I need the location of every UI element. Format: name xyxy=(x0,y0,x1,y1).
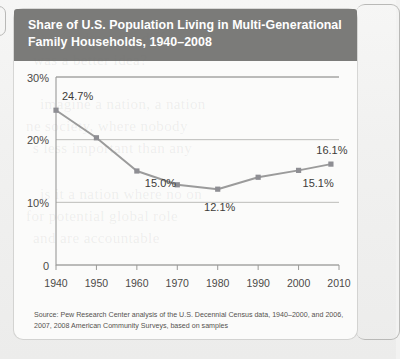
chart-title-banner: Share of U.S. Population Living in Multi… xyxy=(14,9,357,61)
data-point-label: 12.1% xyxy=(204,201,235,213)
x-axis-tick-label: 1960 xyxy=(125,277,149,289)
source-note: Source: Pew Research Center analysis of … xyxy=(34,310,350,331)
line-chart: 010%20%30%194019501960197019801990200020… xyxy=(14,61,357,339)
x-axis-tick-label: 1980 xyxy=(206,277,230,289)
data-point-marker xyxy=(53,108,58,113)
data-point-marker xyxy=(134,168,139,173)
page-title: Share of U.S. Population Living in Multi… xyxy=(28,17,343,50)
page-frame-right xyxy=(356,4,400,340)
data-point-label: 16.1% xyxy=(316,144,347,156)
data-point-label: 24.7% xyxy=(62,90,93,102)
data-point-marker xyxy=(94,135,99,140)
x-axis-tick-label: 1990 xyxy=(246,277,270,289)
data-point-label: 15.0% xyxy=(145,177,176,189)
y-axis-tick-label: 0 xyxy=(43,260,49,272)
x-axis-tick-label: 2000 xyxy=(287,277,311,289)
y-axis-tick-label: 30% xyxy=(27,72,49,84)
y-axis-tick-label: 20% xyxy=(27,134,49,146)
y-axis-tick-label: 10% xyxy=(27,197,49,209)
x-axis-tick-label: 1950 xyxy=(85,277,109,289)
x-axis-tick-label: 2010 xyxy=(327,277,351,289)
x-axis-tick-label: 1970 xyxy=(166,277,190,289)
data-series-line xyxy=(56,110,331,189)
chart-plot-area: 010%20%30%194019501960197019801990200020… xyxy=(14,61,357,339)
page-frame-corner-left xyxy=(0,6,6,36)
x-axis-tick-label: 1940 xyxy=(44,277,68,289)
data-point-label: 15.1% xyxy=(303,177,334,189)
data-point-marker xyxy=(328,162,333,167)
data-point-marker xyxy=(296,168,301,173)
data-point-marker xyxy=(215,187,220,192)
data-point-marker xyxy=(256,175,261,180)
chart-card: Share of U.S. Population Living in Multi… xyxy=(14,9,357,339)
